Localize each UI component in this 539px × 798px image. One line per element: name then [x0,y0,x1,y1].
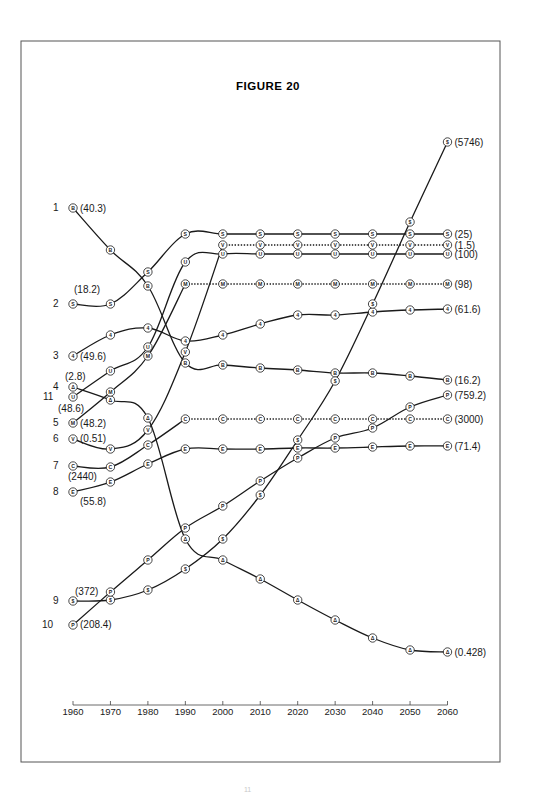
svg-text:P: P [146,557,150,563]
svg-text:Δ: Δ [296,597,300,603]
svg-text:B: B [221,362,225,368]
svg-text:S: S [333,231,337,237]
data-point-marker: U [368,250,376,258]
svg-text:U: U [408,251,412,257]
svg-text:E: E [446,443,450,449]
svg-text:B: B [183,360,187,366]
data-point-marker: Δ [106,396,114,404]
svg-text:4: 4 [184,338,187,344]
data-point-marker: B [443,376,451,384]
data-point-marker: C [181,415,189,423]
svg-text:M: M [370,281,374,287]
line-series-3 [73,309,448,356]
data-point-marker: M [331,280,339,288]
x-tick-label: 2040 [362,706,383,717]
data-point-marker: U [406,250,414,258]
data-point-marker: E [331,444,339,452]
start-value-label: (2.8) [65,371,86,382]
data-point-marker: M [443,280,451,288]
end-value-label: (98) [455,279,473,290]
svg-text:Δ: Δ [371,635,375,641]
svg-text:Δ: Δ [146,415,150,421]
data-point-marker: B [69,204,77,212]
data-point-marker: 4 [144,324,152,332]
svg-text:M: M [183,281,187,287]
data-point-marker: U [181,258,189,266]
svg-text:M: M [296,281,300,287]
x-tick-label: 1960 [62,706,83,717]
data-point-marker: B [256,364,264,372]
svg-text:$: $ [259,492,262,498]
data-point-marker: P [256,477,264,485]
data-point-marker: M [406,280,414,288]
end-value-label: (759.2) [455,390,487,401]
data-point-marker: B [368,369,376,377]
data-point-marker: S [144,268,152,276]
svg-text:4: 4 [409,307,412,313]
data-point-marker: B [219,361,227,369]
svg-text:M: M [71,420,75,426]
svg-text:C: C [296,416,300,422]
svg-text:B: B [296,367,300,373]
data-point-marker: Δ [368,634,376,642]
svg-text:$: $ [184,566,187,572]
svg-text:E: E [259,446,263,452]
svg-text:E: E [371,444,375,450]
data-point-marker: B [106,246,114,254]
figure-border [21,41,500,762]
data-point-marker: $ [331,377,339,385]
svg-text:B: B [71,205,75,211]
svg-text:C: C [333,416,337,422]
x-axis: 1960197019801990200020102020203020402050… [62,701,458,717]
data-point-marker: E [144,460,152,468]
data-point-marker: S [368,230,376,238]
data-point-marker: E [443,442,451,450]
x-tick-label: 2020 [287,706,308,717]
data-point-marker: E [69,488,77,496]
svg-text:Δ: Δ [71,384,75,390]
data-point-marker: Δ [69,383,77,391]
svg-text:S: S [109,301,113,307]
svg-text:U: U [258,251,262,257]
svg-text:B: B [333,370,337,376]
data-point-marker: P [331,434,339,442]
data-point-marker: E [294,444,302,452]
svg-text:C: C [183,416,187,422]
series-number-label: 9 [53,595,59,606]
svg-text:B: B [371,370,375,376]
data-point-marker: Δ [443,648,451,656]
data-point-marker: U [443,250,451,258]
svg-text:S: S [184,231,188,237]
svg-text:V: V [371,242,375,248]
data-point-marker: E [106,478,114,486]
svg-text:B: B [146,283,150,289]
series-number-label: 11 [43,391,54,402]
data-point-marker: S [69,300,77,308]
data-point-marker: U [219,250,227,258]
data-point-marker: C [331,415,339,423]
svg-text:M: M [258,281,262,287]
svg-text:4: 4 [334,312,337,318]
svg-text:S: S [259,231,263,237]
line-series-4 [73,387,448,652]
svg-text:Δ: Δ [333,617,337,623]
data-point-marker: P [106,588,114,596]
data-point-marker: U [331,250,339,258]
svg-text:$: $ [296,437,299,443]
data-point-marker: B [406,372,414,380]
data-point-marker: $ [181,565,189,573]
svg-text:E: E [296,445,300,451]
end-value-label: (5746) [455,137,484,148]
svg-text:U: U [221,251,225,257]
end-value-label: (0.428) [455,647,487,658]
svg-text:V: V [446,242,450,248]
start-value-label: (55.8) [80,496,106,507]
svg-text:$: $ [409,219,412,225]
end-value-label: (71.4) [455,441,481,452]
start-value-label: (0.51) [80,433,106,444]
end-value-label: (25) [455,229,473,240]
data-point-marker: V [331,241,339,249]
data-point-marker: C [256,415,264,423]
data-point-marker: E [256,445,264,453]
svg-text:V: V [408,242,412,248]
